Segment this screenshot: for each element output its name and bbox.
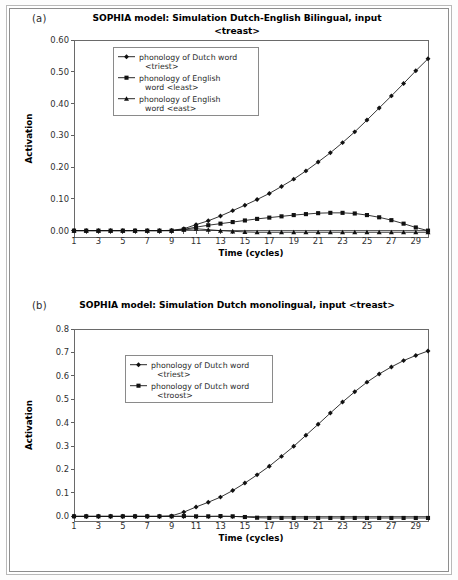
panel-a-title-line-2: <treast> [62, 25, 412, 38]
y-axis-tick-label: 0.4 [56, 418, 69, 428]
x-axis-tick-label: 7 [145, 236, 150, 246]
y-axis-tick-label: 0.00 [50, 226, 69, 236]
x-axis-tick-label: 25 [362, 236, 373, 246]
data-point-square [341, 211, 345, 215]
legend-label: phonology of Dutch word [139, 53, 237, 62]
legend-label: phonology of English [139, 74, 221, 83]
data-point-square [279, 516, 283, 520]
data-point-diamond [230, 208, 235, 213]
y-axis-tick-label: 0.2 [56, 464, 69, 474]
data-point-square [194, 514, 198, 518]
y-axis-tick-label: 0.20 [50, 162, 69, 172]
y-axis-tick-label: 0.5 [56, 394, 69, 404]
data-point-square [243, 218, 247, 222]
x-axis-tick-label: 1 [71, 236, 76, 246]
data-point-square [267, 516, 271, 520]
data-point-square [353, 211, 357, 215]
x-axis-tick-label: 29 [410, 521, 421, 531]
x-axis-tick-label: 11 [191, 236, 202, 246]
data-point-diamond [413, 353, 418, 358]
x-axis-tick-label: 25 [362, 521, 373, 531]
x-axis-tick-label: 3 [96, 236, 101, 246]
data-point-square [304, 212, 308, 216]
legend-label: word <east> [145, 104, 196, 113]
data-point-square [328, 211, 332, 215]
y-axis-tick-label: 0.0 [56, 511, 69, 521]
data-point-square [170, 514, 174, 518]
data-point-square [279, 214, 283, 218]
data-point-square [157, 514, 161, 518]
panel-b-chart: 0.00.10.20.30.40.50.60.70.81357911131517… [10, 291, 448, 572]
panel-a-title-line-1: SOPHIA model: Simulation Dutch-English B… [62, 12, 412, 25]
data-point-diamond [218, 495, 223, 500]
legend-label: <troost> [157, 391, 193, 400]
data-point-square [316, 211, 320, 215]
y-axis-tick-label: 0.7 [56, 347, 69, 357]
data-point-diamond [242, 203, 247, 208]
x-axis-tick-label: 27 [386, 236, 397, 246]
x-axis-tick-label: 3 [96, 521, 101, 531]
data-point-diamond [255, 197, 260, 202]
data-point-square [255, 217, 259, 221]
data-point-square [121, 514, 125, 518]
data-point-square [377, 215, 381, 219]
x-axis-tick-label: 21 [313, 521, 324, 531]
y-axis-title: Activation [24, 400, 34, 450]
legend: phonology of Dutch word<triest>phonology… [113, 47, 258, 116]
legend-label: phonology of Dutch word [151, 382, 249, 391]
panel-a-label: (a) [32, 13, 47, 24]
data-point-square [218, 514, 222, 518]
data-point-square [133, 514, 137, 518]
data-point-square [218, 222, 222, 226]
data-point-diamond [194, 505, 199, 510]
data-point-square [414, 225, 418, 229]
y-axis-tick-label: 0.6 [56, 371, 69, 381]
series-2 [72, 211, 430, 233]
data-point-square [402, 222, 406, 226]
data-point-square [341, 516, 345, 520]
series-line [74, 213, 428, 231]
y-axis-tick-label: 0.50 [50, 67, 69, 77]
data-point-square [365, 516, 369, 520]
data-point-square [145, 514, 149, 518]
data-point-square [255, 516, 259, 520]
data-point-diamond [401, 358, 406, 363]
x-axis-tick-label: 9 [169, 521, 174, 531]
panel-b-title-line-1: SOPHIA model: Simulation Dutch monolingu… [62, 299, 412, 312]
panel-a-title: SOPHIA model: Simulation Dutch-English B… [62, 12, 412, 37]
data-point-square [109, 514, 113, 518]
data-point-square [292, 516, 296, 520]
data-point-square [72, 514, 76, 518]
data-point-square [316, 516, 320, 520]
data-point-diamond [267, 191, 272, 196]
legend-label: <triest> [157, 370, 190, 379]
data-point-diamond [206, 218, 211, 223]
data-point-square [231, 514, 235, 518]
x-axis-title: Time (cycles) [219, 248, 284, 258]
data-point-diamond [181, 510, 186, 515]
x-axis-tick-label: 13 [215, 236, 226, 246]
data-point-square [426, 516, 430, 520]
data-point-square [231, 220, 235, 224]
x-axis-tick-label: 15 [240, 521, 251, 531]
data-point-diamond [230, 488, 235, 493]
data-point-diamond [389, 364, 394, 369]
panel-a: (a) SOPHIA model: Simulation Dutch-Engli… [10, 9, 448, 291]
y-axis-tick-label: 0.3 [56, 441, 69, 451]
x-axis-tick-label: 13 [215, 521, 226, 531]
data-point-square [124, 76, 128, 80]
panel-b-title: SOPHIA model: Simulation Dutch monolingu… [62, 299, 412, 312]
x-axis-tick-label: 15 [240, 236, 251, 246]
data-point-diamond [218, 214, 223, 219]
legend-label: <triest> [145, 62, 178, 71]
data-point-square [206, 223, 210, 227]
data-point-diamond [426, 349, 431, 354]
data-point-square [353, 516, 357, 520]
data-point-diamond [291, 177, 296, 182]
data-point-square [206, 514, 210, 518]
y-axis-tick-label: 0.8 [56, 324, 69, 334]
x-axis-tick-label: 5 [120, 236, 125, 246]
legend-label: phonology of English [139, 95, 221, 104]
data-point-square [267, 216, 271, 220]
data-point-square [414, 516, 418, 520]
